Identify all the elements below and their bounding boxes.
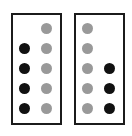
left-panel-right-column-dot-row-5 xyxy=(41,103,52,114)
right-panel-right-column-dot-row-3 xyxy=(104,63,115,74)
dot-array-figure xyxy=(0,0,132,136)
right-panel-right-column-dot-row-4 xyxy=(104,83,115,94)
left-panel-right-column-dot-row-1 xyxy=(41,23,52,34)
right-panel-left-column-dot-row-4 xyxy=(82,83,93,94)
right-panel-right-column-dot-row-5 xyxy=(104,103,115,114)
left-panel-left-column-dot-row-2 xyxy=(19,43,30,54)
right-panel-left-column-dot-row-5 xyxy=(82,103,93,114)
left-panel-right-column-dot-row-3 xyxy=(41,63,52,74)
right-panel-left-column-dot-row-3 xyxy=(82,63,93,74)
left-panel-right-column-dot-row-4 xyxy=(41,83,52,94)
left-panel-left-column-dot-row-3 xyxy=(19,63,30,74)
left-panel-left-column-dot-row-5 xyxy=(19,103,30,114)
left-panel-right-column-dot-row-2 xyxy=(41,43,52,54)
right-panel-left-column-dot-row-1 xyxy=(82,23,93,34)
right-panel-left-column-dot-row-2 xyxy=(82,43,93,54)
left-panel-left-column-dot-row-4 xyxy=(19,83,30,94)
